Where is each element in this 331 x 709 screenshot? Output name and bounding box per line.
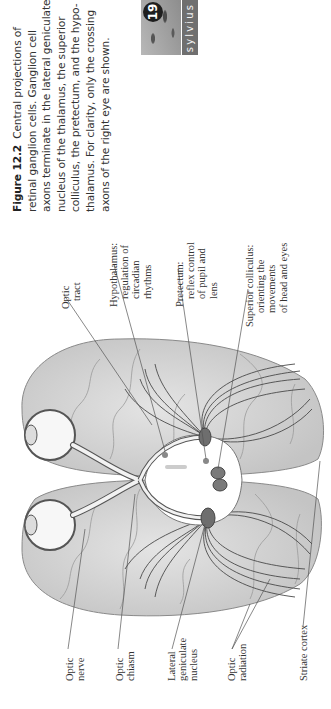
label-line: radiation (237, 644, 248, 681)
label-line: Superior colliculus: (244, 243, 255, 327)
label-optic-radiation: Optic radiation (226, 644, 248, 681)
eye-left (25, 410, 75, 460)
lgn-right (201, 508, 215, 528)
label-line: geniculate (177, 638, 188, 681)
label-line: Lateral (166, 638, 177, 681)
label-line: Pretectum: (174, 242, 185, 307)
superior-colliculus (213, 479, 227, 491)
label-line: nucleus (188, 638, 199, 681)
label-striate-cortex: Striate cortex (298, 625, 309, 681)
label-superior-colliculus: Superior colliculus: orienting the movem… (244, 243, 289, 327)
label-lateral-geniculate-nucleus: Lateral geniculate nucleus (166, 638, 200, 681)
label-line: regulation of (119, 243, 130, 307)
figure-page: Figure 12.2Central projections of retina… (0, 0, 331, 709)
label-line: of head and eyes (278, 243, 289, 327)
visual-pathway-illustration (0, 0, 331, 709)
label-line: rhythms (142, 243, 153, 307)
label-line: Optic (64, 658, 75, 681)
label-line: chiasm (125, 651, 136, 681)
label-pretectum: Pretectum: reflex control of pupil and l… (174, 242, 219, 307)
aqueduct (165, 465, 187, 469)
label-line: lens (208, 242, 219, 307)
label-line: tract (71, 282, 82, 309)
label-line: circadian (130, 243, 141, 307)
label-line: of pupil and (196, 242, 207, 307)
label-line: Optic (60, 282, 71, 309)
lgn-left (199, 428, 211, 446)
label-optic-tract: Optic tract (60, 282, 82, 309)
hypothalamus (162, 452, 168, 458)
label-hypothalamus: Hypothalamus: regulation of circadian rh… (108, 243, 153, 307)
label-line: Hypothalamus: (108, 243, 119, 307)
label-optic-nerve: Optic nerve (64, 658, 86, 681)
eye-right (25, 500, 75, 550)
label-line: Optic (226, 644, 237, 681)
label-line: orienting the (255, 243, 266, 327)
label-line: reflex control (185, 242, 196, 307)
label-line: nerve (75, 658, 86, 681)
label-line: Optic (114, 651, 125, 681)
label-line: Striate cortex (298, 625, 309, 681)
label-optic-chiasm: Optic chiasm (114, 651, 136, 681)
label-line: movements (266, 243, 277, 327)
